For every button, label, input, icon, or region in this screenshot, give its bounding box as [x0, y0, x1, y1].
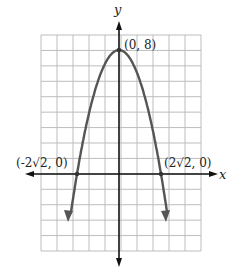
graph-figure: y x (0, 8) (-2√2, 0) (2√2, 0)	[0, 0, 236, 275]
left-intercept-point	[75, 172, 79, 176]
right-intercept-point	[159, 172, 163, 176]
vertex-point	[117, 48, 121, 52]
left-intercept-label: (-2√2, 0)	[16, 157, 68, 169]
x-axis-label: x	[219, 168, 226, 181]
right-intercept-label: (2√2, 0)	[164, 157, 212, 169]
grid	[41, 35, 201, 251]
vertex-label: (0, 8)	[124, 39, 156, 51]
graph-canvas	[0, 0, 236, 275]
y-axis-label: y	[114, 3, 121, 16]
